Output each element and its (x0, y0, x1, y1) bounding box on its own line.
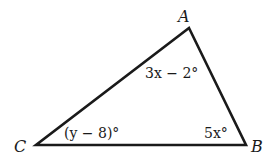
triangle-svg: A B C 3x − 2° 5x° (y − 8)° (0, 0, 274, 162)
angle-label-c: (y − 8)° (64, 125, 119, 141)
angle-label-a: 3x − 2° (145, 65, 198, 81)
triangle-diagram: A B C 3x − 2° 5x° (y − 8)° (0, 0, 274, 162)
vertex-label-a: A (176, 7, 190, 26)
angle-label-b: 5x° (204, 125, 228, 141)
vertex-label-c: C (14, 137, 26, 156)
vertex-label-b: B (250, 137, 263, 156)
